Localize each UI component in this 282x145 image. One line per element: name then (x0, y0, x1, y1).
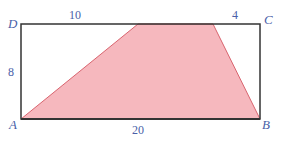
vertex-label-c: C (264, 12, 273, 27)
length-label-top-right: 4 (232, 8, 238, 22)
vertex-label-d: D (7, 16, 18, 31)
vertex-label-a: A (8, 117, 17, 132)
length-label-bottom: 20 (132, 123, 144, 137)
length-label-left: 8 (8, 65, 14, 79)
length-label-top-left: 10 (69, 8, 81, 22)
geometry-diagram: D C A B 10 4 8 20 (0, 0, 282, 145)
vertex-label-b: B (262, 117, 270, 132)
shaded-trapezoid (21, 24, 260, 119)
